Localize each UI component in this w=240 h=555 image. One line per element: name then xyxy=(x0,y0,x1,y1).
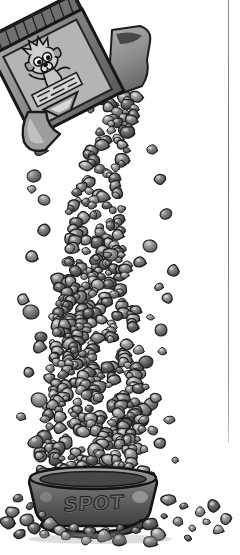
kibble-piece xyxy=(56,300,62,306)
kibble-piece xyxy=(119,462,125,468)
kibble-piece xyxy=(106,382,113,387)
kibble-piece xyxy=(189,525,196,531)
kibble-piece xyxy=(73,398,82,406)
kibble-piece xyxy=(38,511,45,518)
dog-food-illustration xyxy=(0,0,240,555)
kibble-piece xyxy=(58,456,65,461)
kibble-piece xyxy=(172,457,179,463)
kibble-piece xyxy=(173,517,183,526)
kibble-piece xyxy=(203,519,211,525)
kibble-piece xyxy=(148,426,158,435)
kibble-piece xyxy=(135,436,141,441)
kibble-piece xyxy=(16,413,26,421)
kibble-piece xyxy=(85,405,93,413)
kibble-piece xyxy=(184,535,192,541)
kibble-piece xyxy=(161,495,177,505)
kibble-piece xyxy=(26,251,38,262)
kibble-piece xyxy=(147,145,158,154)
kibble-piece xyxy=(142,384,149,390)
kibble-piece xyxy=(93,255,100,261)
kibble-piece xyxy=(24,367,34,377)
kibble-piece xyxy=(83,308,94,318)
kibble-piece xyxy=(40,416,50,423)
kibble-piece xyxy=(112,312,123,321)
kibble-piece xyxy=(154,438,165,448)
kibble-piece xyxy=(106,221,115,231)
kibble-piece xyxy=(146,315,154,320)
kibble-piece xyxy=(109,207,116,214)
kibble-piece xyxy=(46,423,54,430)
kibble-piece xyxy=(116,257,123,263)
kibble-piece xyxy=(161,514,168,519)
kibble-piece xyxy=(105,270,112,275)
kibble-piece xyxy=(71,412,78,418)
kibble-piece xyxy=(138,426,146,433)
illustration-canvas: SPOT Dog food box pouring kibble into a … xyxy=(0,0,240,555)
kibble-piece xyxy=(68,454,75,460)
kibble-piece xyxy=(69,523,79,531)
kibble-piece xyxy=(116,524,124,531)
kibble-piece xyxy=(150,393,161,402)
kibble-piece xyxy=(81,390,92,400)
kibble-piece xyxy=(140,445,148,452)
kibble-piece xyxy=(90,211,97,219)
kibble-piece xyxy=(93,393,103,402)
ground-shadow xyxy=(28,534,172,544)
kibble-piece xyxy=(81,273,88,279)
vertical-rule xyxy=(228,0,229,443)
kibble-piece xyxy=(78,351,86,357)
kibble-piece xyxy=(13,494,23,502)
kibble-piece xyxy=(38,224,50,236)
kibble-piece xyxy=(28,523,40,534)
